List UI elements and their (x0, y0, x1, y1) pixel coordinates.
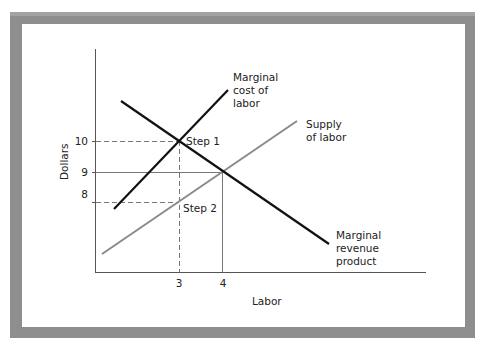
step-1-label: Step 1 (186, 135, 220, 147)
supply-label-line-1: Supply (306, 118, 342, 130)
mrp-label-line-3: product (336, 255, 376, 267)
mcl-label-line-2: cost of (233, 84, 269, 96)
x-tick-label-4: 4 (220, 277, 227, 289)
x-tick-label-3: 3 (176, 277, 183, 289)
mcl-label-line-1: Marginal (233, 71, 278, 83)
mcl-label-line-3: labor (233, 97, 260, 109)
mrp-label-line-1: Marginal (336, 229, 381, 241)
y-axis-title: Dollars (58, 143, 70, 180)
y-tick-label-10: 10 (75, 135, 88, 147)
supply-label-line-2: of labor (306, 131, 347, 143)
x-axis-title: Labor (252, 295, 282, 307)
y-tick-label-8: 8 (81, 188, 88, 200)
monopsony-chart: 10 9 8 3 4 Labor Dollars Step 1 Step 2 M… (0, 0, 486, 350)
y-tick-label-9: 9 (81, 166, 88, 178)
step-2-label: Step 2 (183, 202, 217, 214)
mrp-label-line-2: revenue (336, 242, 379, 254)
